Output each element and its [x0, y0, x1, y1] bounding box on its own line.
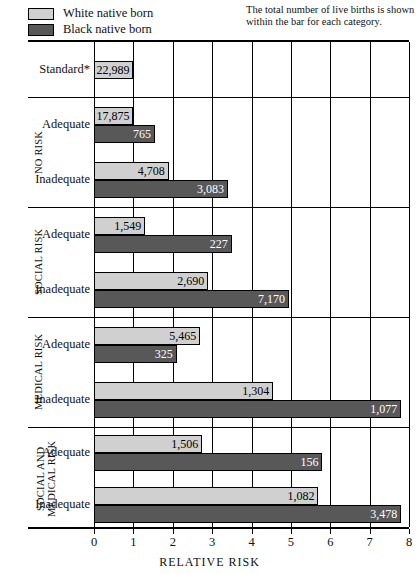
bar-row-label: Adequate [28, 118, 90, 131]
bar-row-label: Inadequate [28, 393, 90, 406]
bar-black-native-born: 227 [94, 235, 232, 253]
legend: White native born Black native born [28, 6, 198, 38]
group-title-no-risk: NO RISK [30, 97, 46, 207]
bar-group: SOCIAL RISKAdequate1,549227Inadequate2,6… [28, 207, 409, 317]
bar-value-label: 1,506 [171, 438, 201, 450]
bar-black-native-born: 325 [94, 345, 177, 363]
bar-row-label: Inadequate [28, 173, 90, 186]
bar-value-label: 765 [133, 128, 154, 140]
x-axis-title: RELATIVE RISK [0, 555, 419, 570]
axis-tick-7 [370, 529, 371, 534]
chart-plot-area: Standard*22,989NO RISKAdequate17,875765I… [28, 40, 409, 529]
bar-black-native-born: 3,083 [94, 180, 228, 198]
bar-value-label: 1,077 [370, 403, 400, 415]
axis-tick-5 [291, 529, 292, 534]
bar-group: MEDICAL RISKAdequate5,465325Inadequate1,… [28, 317, 409, 427]
group-title-medical-risk: MEDICAL RISK [30, 317, 46, 427]
bar-value-label: 156 [300, 456, 321, 468]
axis-tick-2 [173, 529, 174, 534]
bar-black-native-born: 1,077 [94, 400, 401, 418]
axis-tick-3 [212, 529, 213, 534]
bar-black-native-born: 765 [94, 125, 155, 143]
bar-white-native-born: 5,465 [94, 327, 200, 345]
bar-value-label: 325 [155, 348, 176, 360]
legend-item-white: White native born [28, 6, 198, 21]
bar-group: NO RISKAdequate17,875765Inadequate4,7083… [28, 97, 409, 207]
axis-tick-label-0: 0 [84, 535, 104, 549]
bar-white-native-born: 1,304 [94, 382, 273, 400]
axis-tick-label-7: 7 [360, 535, 380, 549]
bar-white-native-born: 1,082 [94, 487, 318, 505]
bar-value-label: 227 [210, 238, 231, 250]
bar-white-native-born: 1,549 [94, 217, 145, 235]
axis-tick-6 [330, 529, 331, 534]
bar-value-label: 4,708 [138, 165, 168, 177]
axis-tick-label-6: 6 [320, 535, 340, 549]
legend-swatch-white-icon [28, 8, 54, 20]
axis-tick-8 [409, 529, 410, 534]
bar-value-label: 5,465 [169, 330, 199, 342]
bar-white-native-born: 2,690 [94, 272, 208, 290]
axis-tick-label-5: 5 [281, 535, 301, 549]
bar-value-label: 17,875 [96, 110, 132, 122]
bar-value-label: 3,083 [197, 183, 227, 195]
bar-value-label: 1,082 [287, 490, 317, 502]
legend-swatch-black-icon [28, 24, 54, 36]
axis-tick-label-2: 2 [163, 535, 183, 549]
bar-row-label: Adequate [28, 446, 90, 459]
bar-value-label: 3,478 [370, 508, 400, 520]
bar-row-label: Adequate [28, 338, 90, 351]
bar-value-label: 22,989 [96, 64, 132, 76]
group-separator [28, 427, 409, 428]
bar-black-native-born: 7,170 [94, 290, 289, 308]
axis-tick-4 [252, 529, 253, 534]
axis-tick-label-1: 1 [123, 535, 143, 549]
bar-white-native-born: 17,875 [94, 107, 133, 125]
bar-row-label: Adequate [28, 228, 90, 241]
bar-group: SOCIAL AND MEDICAL RISKAdequate1,506156I… [28, 427, 409, 531]
bar-value-label: 7,170 [258, 293, 288, 305]
bar-value-label: 2,690 [177, 275, 207, 287]
axis-tick-label-3: 3 [202, 535, 222, 549]
axis-tick-label-8: 8 [399, 535, 419, 549]
axis-tick-0 [94, 529, 95, 534]
bar-row-label: Standard* [28, 63, 90, 76]
bar-white-native-born: 1,506 [94, 435, 202, 453]
axis-tick-label-4: 4 [242, 535, 262, 549]
bar-row-label: Inadequate [28, 283, 90, 296]
group-separator [28, 317, 409, 318]
bar-black-native-born: 3,478 [94, 505, 401, 523]
legend-label-white: White native born [63, 7, 153, 20]
axis-tick-1 [133, 529, 134, 534]
x-axis: 012345678 [94, 529, 409, 535]
bar-white-native-born: 22,989 [94, 61, 133, 79]
legend-item-black: Black native born [28, 22, 198, 37]
group-title-social-risk: SOCIAL RISK [30, 207, 46, 317]
bar-group: Standard*22,989 [28, 42, 409, 97]
bar-row-label: Inadequate [28, 498, 90, 511]
legend-label-black: Black native born [63, 23, 152, 36]
bar-black-native-born: 156 [94, 453, 322, 471]
bar-value-label: 1,304 [242, 385, 272, 397]
gridline-8 [409, 42, 410, 527]
bar-value-label: 1,549 [114, 220, 144, 232]
bar-white-native-born: 4,708 [94, 162, 169, 180]
group-separator [28, 97, 409, 98]
group-title-social-and-medical-risk: SOCIAL AND MEDICAL RISK [34, 427, 58, 531]
group-separator [28, 207, 409, 208]
chart-note: The total number of live births is shown… [246, 4, 416, 27]
